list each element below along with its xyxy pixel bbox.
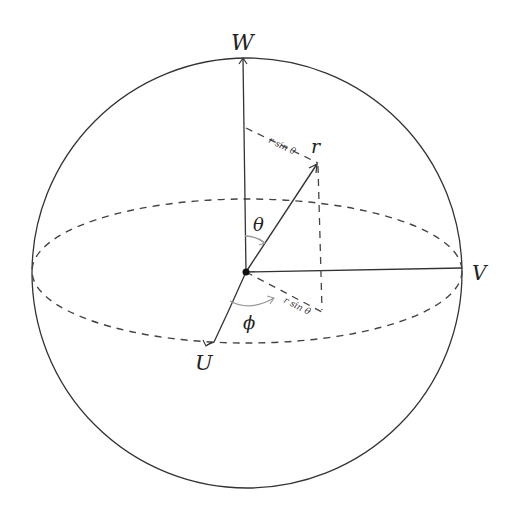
- origin-point: [243, 269, 250, 276]
- u-axis: [207, 272, 246, 345]
- phi-arc: [230, 298, 274, 306]
- theta-label: θ: [253, 214, 264, 235]
- v-label: V: [472, 261, 489, 285]
- spherical-coordinate-diagram: W V U r θ ϕ r sin θ r sin θ: [0, 0, 514, 508]
- lower-projection-label: r sin θ: [282, 295, 313, 317]
- u-arrowhead: [203, 340, 212, 346]
- upper-projection-label: r sin θ: [267, 135, 298, 157]
- w-label: W: [231, 30, 256, 55]
- w-axis: [243, 58, 246, 272]
- theta-arc: [245, 236, 265, 243]
- phi-label: ϕ: [243, 312, 255, 333]
- v-axis: [246, 268, 462, 272]
- r-label: r: [311, 135, 322, 157]
- vertical-projection: [318, 166, 322, 310]
- u-label: U: [195, 351, 214, 375]
